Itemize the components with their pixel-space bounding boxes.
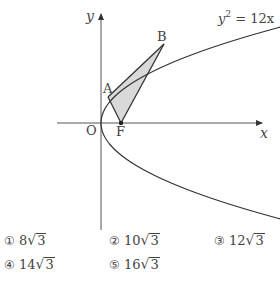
choice-5[interactable]: ⑤16√3 xyxy=(109,256,160,272)
y-axis-label: y xyxy=(85,8,95,24)
point-b-label: B xyxy=(157,29,167,44)
point-f-label: F xyxy=(116,124,125,139)
choice-2[interactable]: ②10√3 xyxy=(109,232,160,248)
sqrt-icon: √ xyxy=(27,232,36,248)
curve-equation-label: y2 = 12x xyxy=(217,9,275,26)
choice-radicand: 3 xyxy=(254,233,264,247)
choice-radicand: 3 xyxy=(36,233,46,247)
sqrt-icon: √ xyxy=(36,256,45,272)
sqrt-icon: √ xyxy=(246,232,255,248)
x-axis-label: x xyxy=(260,125,268,141)
choice-marker: ② xyxy=(109,234,120,248)
choice-coefficient: 10 xyxy=(124,233,141,248)
origin-label: O xyxy=(86,123,97,138)
choice-3[interactable]: ③12√3 xyxy=(214,232,265,248)
choice-coefficient: 14 xyxy=(19,257,36,272)
sqrt-icon: √ xyxy=(141,256,150,272)
choice-radicand: 3 xyxy=(149,233,159,247)
sqrt-icon: √ xyxy=(141,232,150,248)
choice-coefficient: 12 xyxy=(229,233,246,248)
shaded-triangle-abf xyxy=(108,44,164,123)
choice-4[interactable]: ④14√3 xyxy=(4,256,55,272)
curve-label-rest: = 12x xyxy=(231,11,275,26)
choice-coefficient: 16 xyxy=(124,257,141,272)
parabola-curve xyxy=(101,18,280,222)
choice-marker: ① xyxy=(4,234,15,248)
choice-marker: ③ xyxy=(214,234,225,248)
parabola-figure: y x O A B F y2 = 12x xyxy=(0,0,280,232)
choice-radicand: 3 xyxy=(149,257,159,271)
choice-radicand: 3 xyxy=(44,257,54,271)
choice-marker: ④ xyxy=(4,258,15,272)
point-a-label: A xyxy=(102,81,113,96)
choice-1[interactable]: ①8√3 xyxy=(4,232,46,248)
choice-marker: ⑤ xyxy=(109,258,120,272)
